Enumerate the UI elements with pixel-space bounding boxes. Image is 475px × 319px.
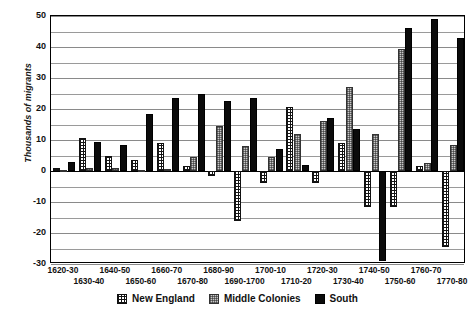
bar-group	[362, 16, 388, 262]
bar	[60, 170, 67, 172]
x-axis-tick-label: 1710-20	[281, 276, 312, 286]
legend-item[interactable]: Middle Colonies	[209, 293, 301, 304]
x-axis-tick-label: 1720-30	[307, 265, 338, 275]
bar-group	[155, 16, 181, 262]
y-axis-tick-labels: 50403020100-10-20-30	[0, 15, 46, 263]
bar	[216, 126, 223, 171]
bar	[312, 171, 319, 183]
bar	[138, 170, 145, 172]
y-axis-tick-label: 10	[2, 134, 46, 144]
x-axis-tick-label: 1660-70	[151, 265, 182, 275]
bar	[390, 171, 397, 207]
y-axis-tick-label: 30	[2, 72, 46, 82]
x-axis-tick-label: 1700-10	[255, 265, 286, 275]
x-axis-tick-label: 1760-70	[411, 265, 442, 275]
bar-group	[440, 16, 464, 262]
legend-label: South	[330, 293, 358, 304]
bar	[416, 166, 423, 171]
bar	[338, 143, 345, 171]
x-axis-tick-label: 1650-60	[125, 276, 156, 286]
bar	[405, 28, 412, 171]
y-axis-tick-label: 20	[2, 103, 46, 113]
legend-label: New England	[132, 293, 195, 304]
bar	[450, 145, 457, 171]
x-axis-tick-label: 1770-80	[437, 276, 468, 286]
bar	[320, 121, 327, 171]
bar	[120, 145, 127, 171]
y-axis-tick-label: -20	[2, 227, 46, 237]
bar	[346, 87, 353, 171]
bar-group	[336, 16, 362, 262]
bar	[379, 171, 386, 261]
bar	[353, 129, 360, 171]
bar	[68, 162, 75, 171]
x-axis-tick-label: 1630-40	[74, 276, 105, 286]
bar-group	[259, 16, 285, 262]
bar	[276, 149, 283, 171]
bar-group	[103, 16, 129, 262]
bar	[457, 38, 464, 171]
bar-group	[129, 16, 155, 262]
bars-layer	[51, 16, 464, 262]
bar	[364, 171, 371, 207]
y-axis-tick-label: 0	[2, 165, 46, 175]
y-axis-tick-label: 40	[2, 41, 46, 51]
bar	[260, 171, 267, 183]
bar	[372, 134, 379, 171]
bar	[294, 134, 301, 171]
legend-swatch-icon	[117, 294, 127, 304]
y-axis-tick-label: -30	[2, 258, 46, 268]
legend-label: Middle Colonies	[224, 293, 301, 304]
bar	[86, 168, 93, 171]
legend-item[interactable]: New England	[117, 293, 195, 304]
legend-swatch-icon	[315, 294, 325, 304]
bar	[190, 157, 197, 171]
x-axis-tick-label: 1750-60	[385, 276, 416, 286]
bar	[164, 169, 171, 171]
bar	[131, 160, 138, 171]
bar	[302, 165, 309, 171]
bar	[424, 163, 431, 171]
x-axis-tick-label: 1620-30	[48, 265, 79, 275]
bar	[157, 143, 164, 171]
x-axis-tick-labels: 1620-301630-401640-501650-601660-701670-…	[50, 265, 465, 291]
legend-item[interactable]: South	[315, 293, 358, 304]
bar	[242, 146, 249, 171]
bar-group	[51, 16, 77, 262]
x-axis-tick-label: 1740-50	[359, 265, 390, 275]
bar-group	[181, 16, 207, 262]
bar	[268, 157, 275, 171]
bar	[431, 19, 438, 171]
bar-group	[233, 16, 259, 262]
migration-bar-chart: Thousands of migrants 50403020100-10-20-…	[0, 0, 475, 319]
bar	[224, 101, 231, 171]
bar-group	[310, 16, 336, 262]
bar	[146, 114, 153, 171]
bar	[183, 166, 190, 171]
bar	[94, 142, 101, 171]
bar	[105, 156, 112, 172]
bar	[442, 171, 449, 247]
bar	[53, 168, 60, 171]
bar-group	[207, 16, 233, 262]
y-axis-tick-label: 50	[2, 10, 46, 20]
x-axis-tick-label: 1670-80	[177, 276, 208, 286]
bar	[286, 107, 293, 171]
bar-group	[284, 16, 310, 262]
x-axis-tick-label: 1690-1700	[225, 276, 265, 286]
x-axis-tick-label: 1680-90	[203, 265, 234, 275]
bar-group	[77, 16, 103, 262]
bar	[234, 171, 241, 221]
bar	[208, 171, 215, 176]
bar	[172, 98, 179, 171]
bar	[112, 168, 119, 171]
y-axis-tick-label: -10	[2, 196, 46, 206]
legend-swatch-icon	[209, 294, 219, 304]
bar-group	[414, 16, 440, 262]
bar	[398, 49, 405, 171]
bar	[327, 118, 334, 171]
chart-legend: New EnglandMiddle ColoniesSouth	[0, 293, 475, 304]
plot-area	[50, 15, 465, 263]
bar	[79, 138, 86, 171]
bar-group	[388, 16, 414, 262]
